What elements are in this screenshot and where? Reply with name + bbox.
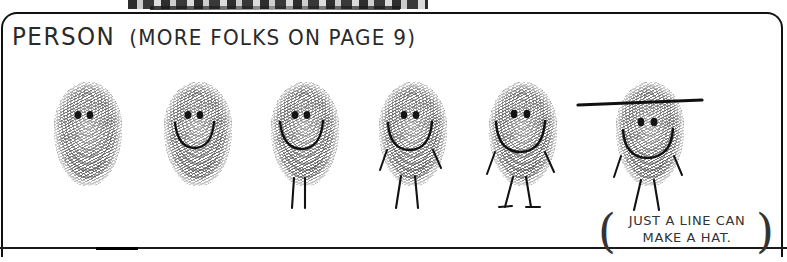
caption-line-2: MAKE A HAT. (614, 229, 760, 246)
caption-line-1: JUST A LINE CAN (614, 212, 760, 229)
fingerprint-body-5 (489, 82, 557, 186)
fingerprint-body-2 (164, 82, 232, 186)
fingerprint-texture-2 (164, 82, 232, 186)
figure-4 (379, 82, 447, 186)
fingerprint-body-4 (379, 82, 447, 186)
fingerprint-texture-5 (489, 82, 557, 186)
fingerprint-texture-1 (54, 82, 122, 186)
fingerprint-body-3 (271, 82, 339, 186)
figure-1 (54, 82, 122, 186)
figure-2 (164, 82, 232, 186)
fingerprint-body-1 (54, 82, 122, 186)
caption-balloon: ( ) JUST A LINE CAN MAKE A HAT. (598, 210, 774, 254)
figure-5 (489, 82, 557, 186)
figure-6 (616, 82, 684, 186)
illustration-page: PERSON(MORE FOLKS ON PAGE 9) (0, 0, 787, 262)
fingerprint-texture-6 (616, 82, 684, 186)
figure-3 (271, 82, 339, 186)
fingerprint-texture-4 (379, 82, 447, 186)
fingerprint-texture-3 (271, 82, 339, 186)
fingerprint-body-6 (616, 82, 684, 186)
caption-text: JUST A LINE CAN MAKE A HAT. (614, 212, 760, 246)
left-foot (499, 206, 512, 207)
